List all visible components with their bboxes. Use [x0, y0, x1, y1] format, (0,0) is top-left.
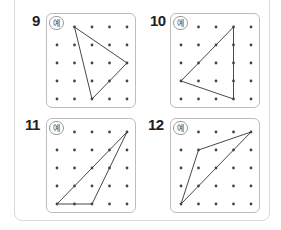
grid-dot [56, 80, 59, 83]
grid-dot [197, 203, 200, 206]
grid-dot [215, 98, 218, 101]
grid-dot [126, 167, 129, 170]
grid-dot [232, 203, 235, 206]
dot-grid-9: 예 [46, 13, 136, 108]
grid-dot [108, 62, 111, 65]
grid-dot [215, 131, 218, 134]
grid-dot [108, 203, 111, 206]
grid-dot [250, 80, 253, 83]
grid-dot [108, 26, 111, 29]
grid-dot [91, 185, 94, 188]
grid-dot [56, 149, 59, 152]
problem-number-9: 9 [32, 12, 40, 29]
grid-dot [232, 98, 235, 101]
grid-dot [197, 185, 200, 188]
grid-dot [232, 80, 235, 83]
grid-dot [91, 26, 94, 29]
grid-dot [197, 62, 200, 65]
grid-dot [56, 167, 59, 170]
grid-dot [215, 62, 218, 65]
grid-dot [250, 98, 253, 101]
grid-dot [108, 44, 111, 47]
problem-number-12: 12 [148, 116, 164, 133]
grid-dot [126, 149, 129, 152]
grid-dot [232, 149, 235, 152]
grid-dot [73, 44, 76, 47]
grid-dot [215, 203, 218, 206]
grid-dot [197, 80, 200, 83]
grid-dot [180, 44, 183, 47]
grid-dot [215, 149, 218, 152]
triangle-outline [75, 27, 128, 99]
grid-dot [215, 26, 218, 29]
grid-dot [197, 44, 200, 47]
grid-dot [180, 203, 183, 206]
grid-dot [126, 98, 129, 101]
grid-dot [250, 149, 253, 152]
example-badge: 예 [173, 16, 188, 30]
dot-grid-12: 예 [170, 118, 260, 213]
grid-dot [91, 131, 94, 134]
grid-dot [91, 98, 94, 101]
dot-grid-10: 예 [170, 13, 260, 108]
grid-dot [250, 185, 253, 188]
example-badge: 예 [49, 16, 64, 30]
grid-dot [73, 167, 76, 170]
grid-dot [215, 185, 218, 188]
grid-dot [250, 203, 253, 206]
grid-dot [232, 62, 235, 65]
grid-dot [56, 44, 59, 47]
grid-dot [108, 149, 111, 152]
grid-dot [180, 167, 183, 170]
grid-dot [197, 131, 200, 134]
grid-dot [108, 98, 111, 101]
grid-dot [180, 62, 183, 65]
problem-number-11: 11 [25, 116, 40, 133]
grid-dot [126, 185, 129, 188]
grid-dot [108, 80, 111, 83]
grid-dot [197, 26, 200, 29]
grid-dot [126, 44, 129, 47]
dot-grid-11: 예 [46, 118, 136, 213]
grid-dot [126, 62, 129, 65]
grid-dot [180, 80, 183, 83]
grid-dot [108, 131, 111, 134]
grid-dot [197, 167, 200, 170]
grid-dot [232, 26, 235, 29]
grid-dot [232, 44, 235, 47]
grid-dot [232, 131, 235, 134]
grid-dot [250, 62, 253, 65]
grid-dot [126, 131, 129, 134]
grid-dot [56, 98, 59, 101]
grid-dot [73, 26, 76, 29]
grid-dot [91, 203, 94, 206]
grid-dot [215, 44, 218, 47]
grid-dot [73, 80, 76, 83]
grid-dot [250, 26, 253, 29]
grid-dot [180, 98, 183, 101]
grid-dot [215, 80, 218, 83]
grid-dot [250, 44, 253, 47]
grid-dot [108, 185, 111, 188]
grid-dot [180, 149, 183, 152]
grid-dot [56, 185, 59, 188]
grid-dot [215, 167, 218, 170]
grid-dot [232, 185, 235, 188]
grid-dot [91, 80, 94, 83]
grid-dot [180, 185, 183, 188]
grid-dot [73, 131, 76, 134]
grid-dot [91, 44, 94, 47]
grid-dot [197, 98, 200, 101]
grid-dot [91, 149, 94, 152]
grid-dot [56, 203, 59, 206]
grid-dot [73, 98, 76, 101]
problem-number-10: 10 [150, 12, 166, 29]
grid-dot [250, 167, 253, 170]
grid-dot [73, 203, 76, 206]
example-badge: 예 [173, 121, 188, 135]
grid-dot [108, 167, 111, 170]
grid-dot [197, 149, 200, 152]
grid-dot [126, 26, 129, 29]
grid-dot [91, 167, 94, 170]
grid-dot [126, 203, 129, 206]
